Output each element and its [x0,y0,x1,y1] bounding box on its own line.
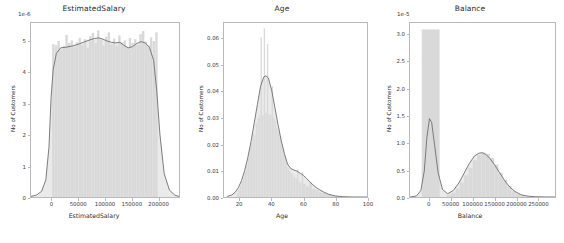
plot-area [223,22,368,198]
y-tick-label: 0.0 [376,195,405,201]
plot-canvas [224,23,367,197]
y-tick-mark [221,118,224,119]
y-tick-mark [407,34,410,35]
y-axis-label: No of Customers [198,85,204,132]
y-tick-label: 4 [0,69,26,75]
y-tick-mark [407,198,410,199]
y-axis-label: No of Customers [386,85,392,132]
x-tick-label: 150000 [484,201,505,207]
y-tick-mark [221,91,224,92]
y-axis-exponent-label: 1e-6 [18,11,31,17]
x-tick-label: 200000 [506,201,527,207]
y-tick-mark [28,104,31,105]
y-tick-mark [28,41,31,42]
x-tick-mark [239,198,240,201]
y-tick-label: 0.05 [188,62,219,68]
y-tick-mark [221,38,224,39]
x-tick-label: 50000 [70,201,87,207]
x-tick-label: 40 [268,201,275,207]
y-tick-label: 2 [0,132,26,138]
y-tick-mark [407,61,410,62]
x-tick-label: 60 [300,201,307,207]
x-tick-label: 100000 [462,201,483,207]
x-tick-label: 0 [50,201,53,207]
x-tick-mark [105,198,106,201]
x-tick-mark [451,198,452,201]
x-tick-mark [78,198,79,201]
x-tick-label: 250000 [528,201,549,207]
y-axis-exponent-label: 1e-5 [397,11,410,17]
x-tick-label: 20 [236,201,243,207]
x-tick-label: 0 [427,201,430,207]
y-tick-label: 5 [0,38,26,44]
x-tick-mark [271,198,272,201]
y-tick-mark [407,143,410,144]
x-tick-mark [159,198,160,201]
x-tick-label: 50000 [442,201,459,207]
x-tick-label: 100000 [95,201,116,207]
kde-fill [227,76,367,197]
y-tick-mark [407,116,410,117]
distribution-figure: EstimatedSalary1e-6012345050000100000150… [0,0,564,243]
x-tick-label: 80 [332,201,339,207]
y-tick-label: 1 [0,164,26,170]
y-tick-label: 0 [0,195,26,201]
y-tick-mark [221,65,224,66]
y-tick-mark [221,171,224,172]
x-tick-mark [304,198,305,201]
chart-title: Age [188,4,376,13]
y-tick-label: 0.06 [188,35,219,41]
x-tick-mark [132,198,133,201]
y-tick-mark [28,198,31,199]
y-tick-label: 2.5 [376,58,405,64]
x-axis-label: Balance [376,212,564,219]
y-tick-label: 0.00 [188,195,219,201]
x-tick-mark [429,198,430,201]
x-axis-label: Age [188,212,376,219]
x-tick-mark [495,198,496,201]
x-tick-mark [51,198,52,201]
plot-area [409,22,556,198]
y-tick-mark [28,167,31,168]
x-tick-mark [517,198,518,201]
x-axis-label: EstimatedSalary [0,212,188,219]
chart-panel-age: Age0.000.010.020.030.040.050.06204060801… [188,0,376,243]
y-tick-mark [28,72,31,73]
x-tick-mark [336,198,337,201]
y-tick-label: 0.5 [376,168,405,174]
y-tick-label: 3.0 [376,31,405,37]
y-tick-mark [28,135,31,136]
y-tick-label: 1.0 [376,140,405,146]
y-tick-mark [221,145,224,146]
x-tick-label: 100 [363,201,373,207]
x-tick-label: 200000 [148,201,169,207]
y-axis-label: No of Customers [10,85,16,132]
chart-panel-estimatedsalary: EstimatedSalary1e-6012345050000100000150… [0,0,188,243]
x-tick-mark [538,198,539,201]
y-tick-label: 0.01 [188,168,219,174]
chart-panel-balance: Balance1e-50.00.51.01.52.02.53.005000010… [376,0,564,243]
y-tick-mark [221,198,224,199]
y-tick-mark [407,89,410,90]
y-tick-label: 0.02 [188,142,219,148]
plot-canvas [410,23,555,197]
x-tick-mark [473,198,474,201]
kde-fill [410,119,555,197]
plot-area [30,22,180,198]
x-tick-label: 150000 [121,201,142,207]
x-tick-mark [368,198,369,201]
y-tick-mark [407,171,410,172]
plot-canvas [31,23,179,197]
